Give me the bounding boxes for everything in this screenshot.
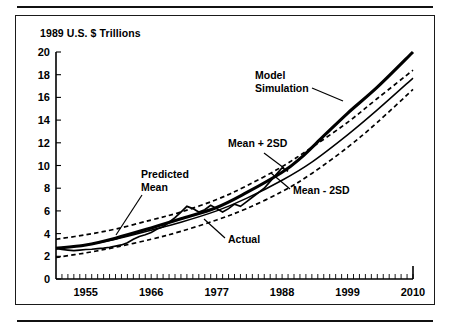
chart-frame: 1989 U.S. $ Trillions 02468101214161820 … (15, 15, 435, 305)
y-tick-label: 4 (44, 228, 51, 240)
x-axis-tick-labels: 195519661977198819992010 (74, 286, 426, 298)
annotation-predicted-mean-leader (116, 195, 142, 235)
x-tick-label: 1966 (139, 286, 163, 298)
annotation-mean-plus-2sd: Mean + 2SD (228, 137, 288, 168)
annotation-mean-plus-2sd-leader (264, 153, 284, 168)
annotation-predicted-mean-line2: Mean (141, 181, 168, 193)
annotation-mean-minus-2sd-label: Mean - 2SD (293, 184, 350, 196)
y-tick-label: 14 (38, 114, 51, 126)
annotation-model-simulation-line2: Simulation (255, 82, 309, 94)
x-tick-label: 1977 (204, 286, 228, 298)
y-tick-label: 2 (44, 250, 50, 262)
y-tick-label: 6 (44, 205, 50, 217)
top-horizontal-rule (17, 6, 433, 8)
annotation-model-simulation: Model Simulation (255, 69, 343, 101)
figure-page: 1989 U.S. $ Trillions 02468101214161820 … (0, 0, 450, 329)
bottom-horizontal-rule (17, 320, 433, 322)
y-tick-label: 10 (38, 160, 50, 172)
y-tick-label: 18 (38, 69, 50, 81)
annotation-actual: Actual (204, 219, 260, 245)
series-model-simulation (56, 52, 413, 248)
annotation-model-simulation-leader (312, 88, 343, 101)
y-tick-label: 8 (44, 182, 50, 194)
annotation-predicted-mean-line1: Predicted (141, 168, 189, 180)
y-axis-tick-labels: 02468101214161820 (38, 46, 51, 285)
y-tick-label: 16 (38, 91, 50, 103)
x-tick-label: 1988 (270, 286, 294, 298)
x-tick-label: 1955 (74, 286, 98, 298)
y-tick-label: 12 (38, 137, 50, 149)
annotation-actual-label: Actual (228, 233, 260, 245)
x-tick-label: 2010 (401, 286, 425, 298)
annotation-mean-minus-2sd-leader (271, 173, 290, 189)
y-tick-label: 20 (38, 46, 50, 58)
y-tick-label: 0 (44, 273, 50, 285)
annotation-actual-leader (204, 219, 225, 238)
annotation-mean-plus-2sd-label: Mean + 2SD (228, 137, 288, 149)
x-tick-label: 1999 (335, 286, 359, 298)
chart-plot-area: 02468101214161820 1955196619771988199920… (16, 16, 436, 306)
annotation-predicted-mean: Predicted Mean (116, 168, 189, 235)
annotation-mean-minus-2sd: Mean - 2SD (271, 173, 350, 196)
annotation-model-simulation-line1: Model (255, 69, 285, 81)
series-mean-plus-2sd (56, 70, 413, 239)
